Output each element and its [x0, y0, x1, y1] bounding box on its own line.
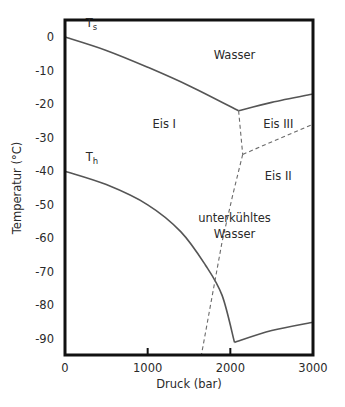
series-line-6	[201, 154, 242, 355]
x-tick-label: 3000	[298, 361, 327, 375]
y-tick-label: -80	[35, 298, 54, 312]
annotation-label: Eis III	[263, 117, 293, 131]
series-line-2	[65, 171, 235, 342]
annotation-label: Eis I	[152, 117, 176, 131]
y-tick-label: -10	[35, 64, 54, 78]
annotation-label: Wasser	[214, 227, 256, 241]
x-tick-label: 0	[61, 361, 68, 375]
series-line-3	[235, 322, 314, 342]
curves-layer	[65, 37, 313, 355]
annotation-label: Eis II	[265, 169, 292, 183]
x-axis-label: Druck (bar)	[156, 377, 222, 391]
x-tick-label: 2000	[216, 361, 245, 375]
y-tick-label: -30	[35, 131, 54, 145]
series-line-4	[239, 111, 243, 155]
x-tick-label: 1000	[133, 361, 162, 375]
y-tick-label: -70	[35, 265, 54, 279]
annotation-label: Wasser	[214, 48, 256, 62]
y-tick-label: -60	[35, 231, 54, 245]
plot-frame	[65, 20, 313, 355]
annotation-label: unterkühltes	[198, 211, 271, 225]
y-tick-label: -20	[35, 97, 54, 111]
labels-layer: TsThWasserEis IEis IIIEis IIunterkühltes…	[85, 16, 294, 241]
annotation-label: Th	[85, 150, 98, 166]
series-line-1	[239, 94, 313, 111]
phase-diagram-chart: 01000200030000-10-20-30-40-50-60-70-80-9…	[0, 0, 345, 407]
y-tick-label: -40	[35, 164, 54, 178]
series-line-0	[65, 37, 239, 111]
annotation-label: Ts	[85, 16, 98, 32]
y-tick-label: -50	[35, 198, 54, 212]
y-axis-label: Temperatur (°C)	[10, 142, 24, 235]
y-tick-label: -90	[35, 332, 54, 346]
y-tick-label: 0	[47, 30, 54, 44]
